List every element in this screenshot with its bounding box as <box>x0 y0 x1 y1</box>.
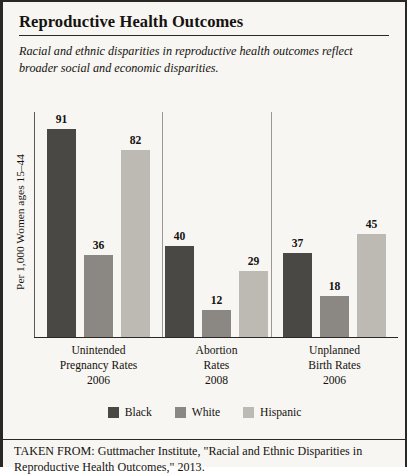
bar-value-label: 12 <box>211 295 223 307</box>
bar-hispanic-g2: 29 <box>239 106 268 337</box>
legend-label: White <box>192 406 220 419</box>
bar-rect-white <box>320 296 349 337</box>
bar-white-g3: 18 <box>320 106 349 337</box>
figure-header: Reproductive Health Outcomes Racial and … <box>3 2 405 77</box>
chart-legend: Black White Hispanic <box>3 406 406 419</box>
source-attribution: TAKEN FROM: Guttmacher Institute, "Racia… <box>14 443 402 475</box>
legend-swatch-icon <box>175 407 186 418</box>
bar-value-label: 36 <box>93 240 105 252</box>
category-line: Pregnancy Rates <box>35 359 162 374</box>
bar-black-g2: 40 <box>165 106 194 337</box>
category-line: Birth Rates <box>271 359 398 374</box>
bar-value-label: 40 <box>174 231 186 243</box>
source-line-1: TAKEN FROM: Guttmacher Institute, "Racia… <box>14 443 402 459</box>
category-label-unintended-pregnancy: Unintended Pregnancy Rates 2006 <box>35 344 162 388</box>
category-line: Rates <box>162 359 271 374</box>
category-line: Unintended <box>35 344 162 359</box>
source-line-2: Reproductive Health Outcomes," 2013. <box>14 459 402 475</box>
chart-plot-area: Per 1,000 Women ages 15–44 91 36 82 <box>3 106 406 401</box>
category-year: 2008 <box>162 374 271 389</box>
bar-hispanic-g3: 45 <box>357 106 386 337</box>
bar-white-g1: 36 <box>84 106 113 337</box>
category-label-abortion: Abortion Rates 2008 <box>162 344 271 388</box>
x-axis-line <box>34 337 398 338</box>
x-axis-category-labels: Unintended Pregnancy Rates 2006 Abortion… <box>35 344 398 388</box>
bar-value-label: 91 <box>56 114 68 126</box>
bar-rect-white <box>84 255 113 337</box>
bar-groups: 91 36 82 40 12 <box>35 106 398 337</box>
bar-black-g3: 37 <box>283 106 312 337</box>
source-divider <box>3 439 406 440</box>
category-line: Unplanned <box>271 344 398 359</box>
bar-hispanic-g1: 82 <box>121 106 150 337</box>
category-year: 2006 <box>35 374 162 389</box>
bar-rect-hispanic <box>121 150 150 337</box>
bar-rect-black <box>283 253 312 337</box>
category-year: 2006 <box>271 374 398 389</box>
category-label-unplanned-birth: Unplanned Birth Rates 2006 <box>271 344 398 388</box>
page-title: Reproductive Health Outcomes <box>19 12 389 32</box>
title-divider <box>19 35 389 36</box>
bar-group-abortion: 40 12 29 <box>162 106 271 337</box>
bar-value-label: 29 <box>248 256 260 268</box>
bar-black-g1: 91 <box>47 106 76 337</box>
bar-rect-hispanic <box>357 234 386 337</box>
bar-value-label: 18 <box>329 281 341 293</box>
bar-white-g2: 12 <box>202 106 231 337</box>
legend-item-white: White <box>175 406 220 419</box>
y-axis-label: Per 1,000 Women ages 15–44 <box>9 106 31 338</box>
bar-value-label: 37 <box>292 238 304 250</box>
bar-rect-white <box>202 310 231 337</box>
bar-group-unintended-pregnancy: 91 36 82 <box>35 106 162 337</box>
bar-group-unplanned-birth: 37 18 45 <box>271 106 398 337</box>
legend-item-hispanic: Hispanic <box>243 406 301 419</box>
figure-subtitle: Racial and ethnic disparities in reprodu… <box>19 43 389 78</box>
y-axis-label-text: Per 1,000 Women ages 15–44 <box>14 154 26 290</box>
legend-label: Hispanic <box>260 406 301 419</box>
bar-rect-black <box>165 246 194 337</box>
legend-label: Black <box>125 406 152 419</box>
legend-swatch-icon <box>243 407 254 418</box>
legend-swatch-icon <box>108 407 119 418</box>
bar-value-label: 82 <box>130 135 142 147</box>
bar-value-label: 45 <box>366 219 378 231</box>
bar-rect-black <box>47 129 76 337</box>
legend-item-black: Black <box>108 406 152 419</box>
bar-rect-hispanic <box>239 271 268 337</box>
category-line: Abortion <box>162 344 271 359</box>
